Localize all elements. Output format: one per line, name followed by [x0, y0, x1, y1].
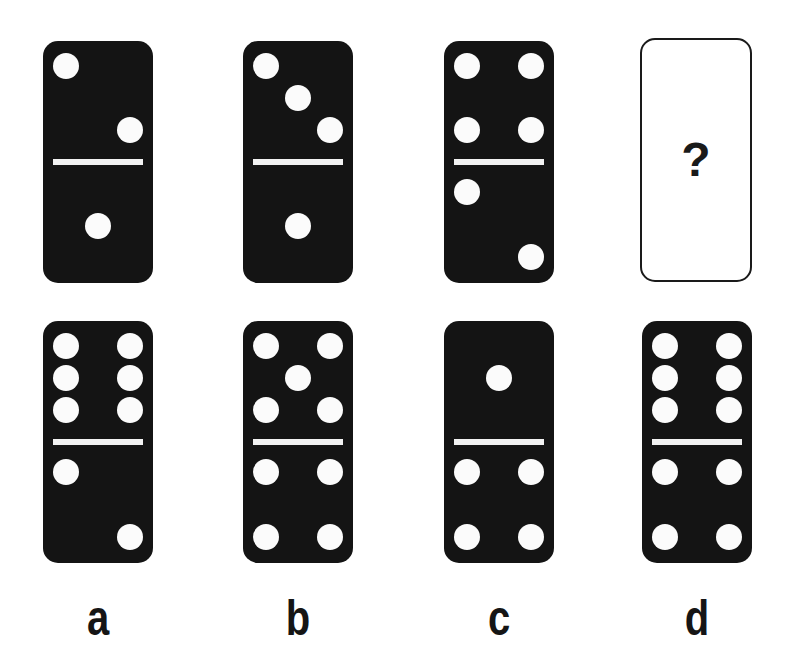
pip [117, 117, 143, 143]
pip [454, 53, 480, 79]
pip [53, 53, 79, 79]
domino-bottom-c [444, 321, 554, 563]
label-a: a [54, 590, 142, 646]
pip [454, 117, 480, 143]
pip [253, 397, 279, 423]
pip [53, 397, 79, 423]
pip [285, 365, 311, 391]
pip [253, 53, 279, 79]
pip [652, 333, 678, 359]
pip [117, 524, 143, 550]
pip [652, 397, 678, 423]
pip [253, 333, 279, 359]
pip [317, 333, 343, 359]
pip [117, 397, 143, 423]
pip [85, 213, 111, 239]
pip [652, 365, 678, 391]
pip [454, 459, 480, 485]
domino-divider [53, 159, 143, 165]
domino-top-b [243, 41, 353, 283]
pip [317, 524, 343, 550]
pip [317, 459, 343, 485]
pip [253, 459, 279, 485]
pip [518, 53, 544, 79]
pip [285, 85, 311, 111]
pip [454, 524, 480, 550]
pip [716, 524, 742, 550]
pip [117, 333, 143, 359]
pip [652, 524, 678, 550]
domino-top-c [444, 41, 554, 283]
pip [716, 365, 742, 391]
pip [317, 397, 343, 423]
domino-bottom-b [243, 321, 353, 563]
question-mark: ? [642, 136, 750, 184]
label-c: c [455, 590, 543, 646]
pip [716, 459, 742, 485]
pip [253, 524, 279, 550]
pip [518, 117, 544, 143]
domino-divider [253, 439, 343, 445]
domino-bottom-d [642, 321, 752, 563]
domino-divider [253, 159, 343, 165]
pip [317, 117, 343, 143]
pip [454, 179, 480, 205]
domino-bottom-a [43, 321, 153, 563]
pip [53, 333, 79, 359]
pip [518, 244, 544, 270]
unknown-domino-answer-slot: ? [640, 38, 752, 282]
pip [53, 365, 79, 391]
pip [117, 365, 143, 391]
pip [518, 524, 544, 550]
pip [518, 459, 544, 485]
domino-divider [652, 439, 742, 445]
pip [53, 459, 79, 485]
pip [716, 397, 742, 423]
domino-divider [454, 439, 544, 445]
domino-divider [53, 439, 143, 445]
domino-top-a [43, 41, 153, 283]
pip [285, 213, 311, 239]
pip [652, 459, 678, 485]
domino-divider [454, 159, 544, 165]
pip [716, 333, 742, 359]
label-b: b [254, 590, 342, 646]
pip [486, 365, 512, 391]
label-d: d [653, 590, 741, 646]
